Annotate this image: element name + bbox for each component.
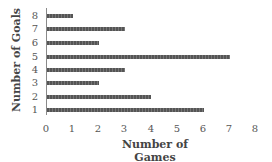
y-tick-5: 5 (30, 52, 40, 62)
y-tick-2: 2 (30, 92, 40, 102)
x-tick-2: 2 (92, 123, 104, 135)
horizontal-bar-chart: Number of Goals 8 7 6 5 4 3 2 1 0 1 2 3 … (0, 0, 272, 162)
y-axis-label: Number of Goals (10, 8, 23, 112)
x-tick-7: 7 (223, 123, 235, 135)
x-tick-8: 8 (249, 123, 261, 135)
y-tick-6: 6 (30, 38, 40, 48)
x-tick-6: 6 (197, 123, 209, 135)
x-tick-3: 3 (118, 123, 130, 135)
bar-goals-6 (47, 41, 99, 45)
bar-goals-4 (47, 68, 125, 72)
bar-goals-8 (47, 14, 73, 18)
bar-goals-2 (47, 95, 151, 99)
bar-goals-1 (47, 108, 204, 112)
y-tick-4: 4 (30, 65, 40, 75)
y-tick-1: 1 (30, 105, 40, 115)
bar-goals-3 (47, 81, 99, 85)
x-tick-4: 4 (145, 123, 157, 135)
x-tick-0: 0 (40, 123, 52, 135)
y-tick-3: 3 (30, 78, 40, 88)
x-tick-1: 1 (66, 123, 78, 135)
x-tick-5: 5 (171, 123, 183, 135)
x-axis-label: Number of Games (100, 138, 210, 162)
bar-goals-5 (47, 55, 230, 59)
y-tick-7: 7 (30, 24, 40, 34)
bar-goals-7 (47, 27, 125, 31)
y-tick-8: 8 (30, 11, 40, 21)
